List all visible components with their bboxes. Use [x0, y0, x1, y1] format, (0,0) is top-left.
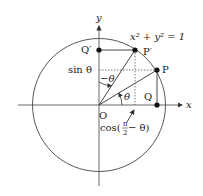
sin-theta-label: sin θ	[68, 64, 92, 75]
svg-text:cos(: cos(	[100, 122, 121, 133]
theta-label: θ	[124, 91, 130, 102]
unit-circle-diagram: y x x² + y² = 1 Q′ P′ P Q O sin θ −θ θ c…	[0, 0, 203, 196]
label-Q: Q	[144, 91, 152, 102]
svg-text:2: 2	[123, 129, 127, 137]
theta-arc	[119, 93, 122, 105]
label-Q-prime: Q′	[81, 44, 92, 55]
label-O: O	[99, 110, 107, 121]
svg-text:− θ): − θ)	[128, 122, 150, 133]
point-Q	[154, 102, 159, 107]
cos-pointer-arrow	[127, 110, 134, 122]
circle-equation: x² + y² = 1	[130, 31, 185, 42]
point-P-prime	[132, 47, 137, 52]
point-Q-prime	[96, 47, 101, 52]
y-axis-label: y	[95, 12, 102, 23]
x-axis-label: x	[186, 99, 192, 110]
label-P: P	[162, 64, 169, 75]
label-P-prime: P′	[143, 46, 153, 57]
cos-label: cos( π 2 − θ)	[100, 120, 150, 137]
neg-theta-label: −θ	[100, 73, 114, 84]
point-P	[154, 67, 159, 72]
